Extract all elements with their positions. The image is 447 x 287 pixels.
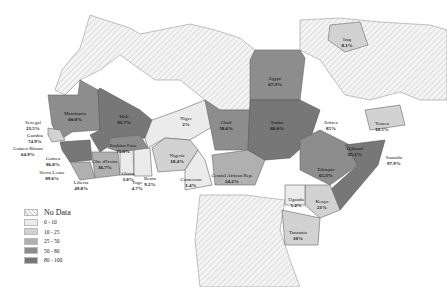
country-value: 89.6% <box>39 176 65 182</box>
country-label: Ethiopia65.3% <box>318 167 335 179</box>
country-value: 86.0% <box>270 126 284 132</box>
country-label: Tanzania10% <box>289 230 307 242</box>
country-label: Nigeria18.4% <box>170 153 185 165</box>
country-label: Niger2% <box>180 116 191 128</box>
country-label: Egypt67.3% <box>268 76 282 88</box>
legend-item-80-100: 80 - 100 <box>24 256 71 266</box>
legend-swatch <box>24 219 38 226</box>
country-label: Senegal23.5% <box>25 120 41 132</box>
legend-label: 80 - 100 <box>44 257 62 263</box>
country-label: Côte d'Ivoire36.7% <box>92 159 118 171</box>
country-value: 75.0% <box>110 149 137 155</box>
country-egypt <box>250 50 305 100</box>
country-value: 97.9% <box>386 161 402 167</box>
map-legend: No Data 0 - 10 10 - 25 25 - 50 50 - 80 8… <box>24 208 71 265</box>
country-label: Chad58.6% <box>219 120 233 132</box>
legend-swatch <box>24 209 38 216</box>
country-value: 21% <box>315 205 328 211</box>
country-value: 9.2% <box>144 182 156 188</box>
country-label: Guinea86.8% <box>46 156 60 168</box>
country-value: 18.5% <box>375 127 389 133</box>
country-label: Benin9.2% <box>144 176 156 188</box>
country-label: Yemen18.5% <box>375 121 389 133</box>
legend-label: 25 - 50 <box>44 238 60 244</box>
legend-item-25-50: 25 - 50 <box>24 237 71 247</box>
country-label: Djibouti85.1% <box>347 146 364 158</box>
country-label: Somalia97.9% <box>386 155 402 167</box>
legend-item-0-10: 0 - 10 <box>24 218 71 228</box>
country-value: 65.3% <box>318 173 335 179</box>
country-value: 18.4% <box>170 159 185 165</box>
country-value: 23.5% <box>25 126 41 132</box>
legend-item-10-25: 10 - 25 <box>24 227 71 237</box>
country-label: Iraq8.1% <box>341 37 352 49</box>
country-label: Togo4.7% <box>131 180 142 192</box>
country-value: 1.4% <box>181 183 202 189</box>
country-value: 85% <box>324 126 338 132</box>
legend-swatch <box>24 238 38 245</box>
country-value: 36.7% <box>92 165 118 171</box>
legend-swatch <box>24 247 38 254</box>
legend-item-no-data: No Data <box>24 208 71 218</box>
country-label: Central African Rep.24.2% <box>211 173 253 185</box>
region-middle-east-nodata <box>300 18 447 100</box>
country-label: Mauritania60.0% <box>64 111 86 123</box>
legend-label: No Data <box>44 208 71 217</box>
country-label: Burkina Faso75.0% <box>110 143 137 155</box>
country-value: 86.8% <box>46 162 60 168</box>
country-label: Kenya21% <box>315 199 328 211</box>
country-label: Guinea-Bissau64.9% <box>13 146 42 158</box>
country-label: Sierra Leone89.6% <box>39 170 65 182</box>
country-togo-benin <box>134 148 152 176</box>
country-value: 10% <box>289 236 307 242</box>
legend-label: 50 - 80 <box>44 248 60 254</box>
country-label: Sudan86.0% <box>270 120 284 132</box>
country-label: Mali91.7% <box>117 114 131 126</box>
country-value: 74.9% <box>27 139 43 145</box>
region-south-africa-nodata <box>195 195 300 287</box>
country-value: 2% <box>180 122 191 128</box>
country-value: 85.1% <box>347 152 364 158</box>
country-value: 4.7% <box>131 186 142 192</box>
legend-item-50-80: 50 - 80 <box>24 246 71 256</box>
country-label: Liberia49.8% <box>74 180 88 192</box>
legend-label: 10 - 25 <box>44 229 60 235</box>
legend-swatch <box>24 257 38 264</box>
country-value: 91.7% <box>117 120 131 126</box>
country-value: 24.2% <box>211 179 253 185</box>
country-value: 8.1% <box>341 43 352 49</box>
country-value: 64.9% <box>13 152 42 158</box>
country-value: 49.8% <box>74 186 88 192</box>
country-value: 58.6% <box>219 126 233 132</box>
country-value: 1.4% <box>288 203 304 209</box>
legend-swatch <box>24 228 38 235</box>
country-label: Eritrea85% <box>324 120 338 132</box>
country-value: 60.0% <box>64 117 86 123</box>
legend-label: 0 - 10 <box>44 219 57 225</box>
country-label: Gambia74.9% <box>27 133 43 145</box>
country-guinea <box>60 140 92 162</box>
country-label: Cameroon1.4% <box>181 177 202 189</box>
country-value: 67.3% <box>268 82 282 88</box>
country-label: Uganda1.4% <box>288 197 304 209</box>
